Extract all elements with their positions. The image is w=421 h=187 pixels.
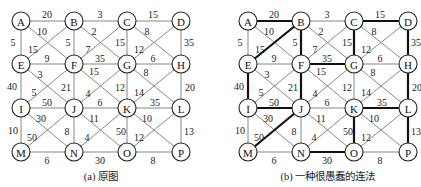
edge-weight-D-G: 12 — [134, 44, 144, 55]
edge-weight-O-P: 8 — [378, 155, 383, 166]
node-label: G — [123, 59, 131, 71]
edge-weight-M-N: 6 — [272, 155, 277, 166]
node-label: I — [246, 103, 250, 115]
edge-weight-K-P: 10 — [369, 113, 379, 124]
node-label: J — [299, 103, 304, 115]
edge-weight-B-C: 3 — [325, 9, 330, 20]
node-label: D — [404, 16, 412, 28]
edge-weight-C-G: 15 — [115, 37, 125, 48]
node-F: F — [292, 55, 310, 73]
node-A: A — [239, 12, 257, 30]
edge-weight-N-O: 30 — [322, 155, 332, 166]
edge-weight-N-O: 30 — [95, 155, 105, 166]
edge-weight-D-G: 12 — [361, 44, 371, 55]
edge-weight-C-F: 7 — [313, 44, 318, 55]
edge-weight-A-F: 10 — [37, 26, 47, 37]
node-J: J — [292, 99, 310, 117]
edge-weight-C-D: 15 — [375, 9, 385, 20]
edge-weight-F-G: 35 — [322, 53, 332, 64]
edge-weight-G-L: 8 — [144, 67, 149, 78]
node-label: K — [123, 103, 131, 115]
node-K: K — [345, 99, 363, 117]
edge-weight-L-O: 12 — [361, 132, 371, 143]
node-label: D — [177, 16, 185, 28]
edge-weight-O-P: 8 — [151, 155, 156, 166]
node-E: E — [12, 55, 30, 73]
node-label: H — [177, 59, 185, 71]
node-P: P — [172, 143, 190, 161]
edge-weight-E-F: 9 — [45, 53, 50, 64]
node-label: L — [405, 103, 412, 115]
node-N: N — [65, 143, 83, 161]
edge-weight-E-I: 40 — [234, 81, 244, 92]
node-D: D — [172, 12, 190, 30]
node-label: P — [405, 147, 411, 159]
node-label: P — [178, 147, 184, 159]
edge-weight-C-H: 8 — [145, 26, 150, 37]
edge-weight-K-N: 4 — [85, 132, 90, 143]
edge-weight-M-N: 6 — [45, 155, 50, 166]
edge-weight-K-L: 35 — [377, 97, 387, 108]
edge-weight-I-N: 30 — [263, 113, 273, 124]
edge-weight-I-M: 10 — [235, 125, 245, 136]
edge-weight-F-K: 15 — [316, 66, 326, 77]
edge-weight-C-H: 8 — [372, 26, 377, 37]
node-label: G — [350, 59, 358, 71]
edge-weight-J-K: 6 — [325, 97, 330, 108]
figure-caption-a: (a) 原图 — [84, 171, 118, 183]
node-G: G — [345, 55, 363, 73]
node-label: B — [70, 16, 77, 28]
figure-caption-b: (b) 一种很愚蠢的连法 — [281, 170, 376, 183]
edge-weight-C-G: 15 — [342, 37, 352, 48]
edge-weight-J-K: 6 — [98, 97, 103, 108]
graph-figure-canvas: 2031555153510152781293564021122035154814… — [0, 0, 421, 187]
edge-weight-K-P: 10 — [142, 113, 152, 124]
edge-weight-A-E: 5 — [238, 37, 243, 48]
node-N: N — [292, 143, 310, 161]
node-label: O — [123, 147, 131, 159]
edge-weight-B-E: 15 — [28, 44, 38, 55]
edge-weight-G-H: 6 — [378, 53, 383, 64]
edge-weight-B-C: 3 — [98, 9, 103, 20]
edge-weight-I-J: 50 — [42, 97, 52, 108]
node-label: M — [243, 147, 253, 159]
edge-weight-F-I: 5 — [32, 87, 37, 98]
edge-weight-F-J: 21 — [61, 82, 71, 93]
node-label: N — [297, 147, 305, 159]
node-D: D — [399, 12, 417, 30]
node-label: A — [244, 16, 252, 28]
edge-weight-C-D: 15 — [148, 9, 158, 20]
edge-weight-G-L: 8 — [371, 67, 376, 78]
node-label: K — [350, 103, 358, 115]
node-G: G — [118, 55, 136, 73]
edge-weight-E-J: 3 — [38, 69, 43, 80]
edge-weight-L-P: 13 — [184, 126, 194, 137]
edge-weight-J-O: 11 — [316, 113, 326, 124]
node-label: A — [17, 16, 25, 28]
edge-weight-J-O: 11 — [89, 113, 99, 124]
edge-weight-J-M: 50 — [254, 132, 264, 143]
node-label: H — [404, 59, 412, 71]
edge-weight-J-N: 8 — [292, 126, 297, 137]
edge-weight-H-L: 20 — [412, 82, 421, 93]
edge-weight-K-O: 50 — [116, 126, 126, 137]
node-label: N — [70, 147, 78, 159]
edge-weight-I-M: 10 — [8, 125, 18, 136]
edge-weight-F-K: 15 — [89, 66, 99, 77]
node-label: O — [350, 147, 358, 159]
graph-figure-b: 2031555153510152781293564021122035154814… — [234, 9, 421, 184]
edge-weight-G-J: 4 — [86, 88, 91, 99]
edge-weight-A-F: 10 — [264, 26, 274, 37]
node-C: C — [118, 12, 136, 30]
node-label: B — [297, 16, 304, 28]
node-label: E — [245, 59, 252, 71]
node-I: I — [12, 99, 30, 117]
edge-weight-I-J: 50 — [269, 97, 279, 108]
edge-weight-C-F: 7 — [86, 44, 91, 55]
edge-weight-K-N: 4 — [312, 132, 317, 143]
node-label: J — [72, 103, 77, 115]
edge-weight-B-G: 2 — [319, 26, 324, 37]
node-label: F — [71, 59, 77, 71]
edge-weight-E-F: 9 — [272, 53, 277, 64]
node-O: O — [118, 143, 136, 161]
